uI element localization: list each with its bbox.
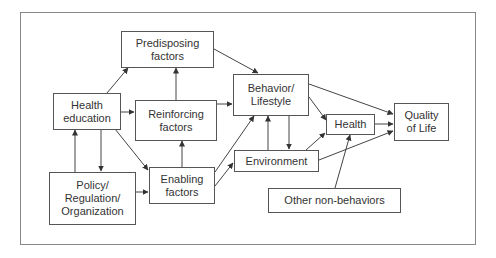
node-quality-of-life: Quality of Life — [394, 103, 449, 141]
node-health: Health — [326, 114, 375, 135]
node-predisposing-factors: Predisposing factors — [121, 31, 214, 68]
edge-environment-health — [306, 133, 325, 150]
node-other-non-behaviors: Other non-behaviors — [268, 188, 401, 213]
node-health-education: Health education — [53, 93, 121, 130]
edge-behavior-health — [309, 97, 326, 120]
node-behavior-lifestyle: Behavior/ Lifestyle — [233, 74, 309, 116]
edge-environment-qol — [319, 131, 393, 160]
edge-healthed-predisposing — [107, 68, 128, 93]
node-enabling-factors: Enabling factors — [149, 167, 215, 204]
edge-predisposing-behavior — [214, 49, 258, 73]
edge-behavior-qol — [309, 84, 393, 114]
node-reinforcing-factors: Reinforcing factors — [135, 100, 217, 141]
edge-othernonbehaviors-health — [335, 135, 350, 188]
node-policy-regulation-organization: Policy/ Regulation/ Organization — [49, 172, 136, 225]
node-environment: Environment — [234, 150, 319, 172]
edge-enabling-environment — [215, 163, 233, 186]
